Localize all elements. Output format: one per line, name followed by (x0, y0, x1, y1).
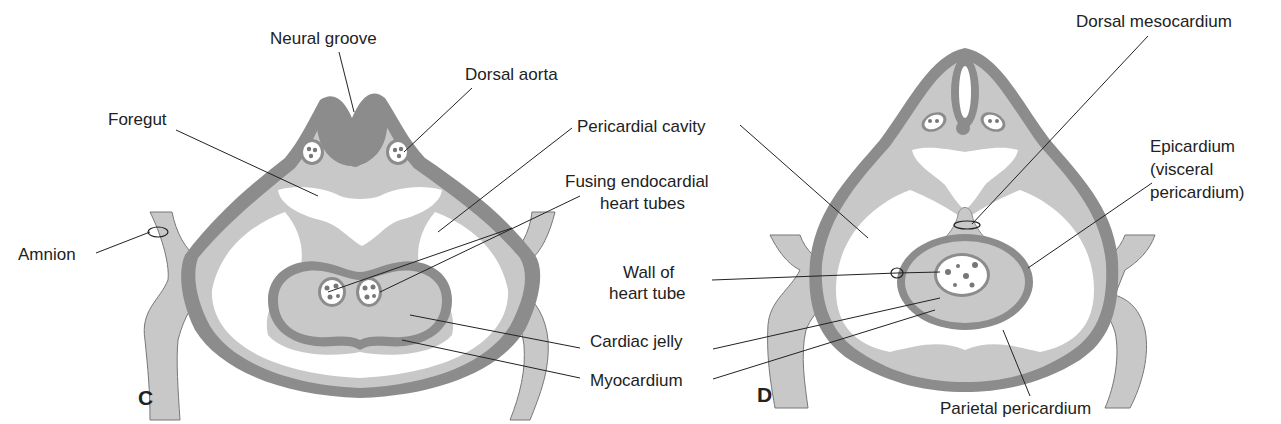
label-amnion: Amnion (18, 245, 76, 264)
label-dorsal-mesocardium: Dorsal mesocardium (1076, 12, 1232, 31)
label-pericardial-cavity: Pericardial cavity (577, 117, 706, 136)
panel-d-drawing (768, 48, 1155, 408)
label-myocardium: Myocardium (590, 371, 683, 390)
label-neural-groove: Neural groove (270, 29, 377, 48)
label-foregut: Foregut (108, 110, 167, 129)
label-wall-1: Wall of (623, 263, 675, 282)
label-fusing-1: Fusing endocardial (565, 172, 709, 191)
label-dorsal-aorta: Dorsal aorta (465, 65, 558, 84)
panel-c-drawing (144, 94, 555, 420)
label-epicardium-2: (visceral (1150, 160, 1213, 179)
label-fusing-2: heart tubes (600, 194, 685, 213)
embryo-cross-section-diagram: Neural groove Dorsal aorta Foregut Peric… (0, 0, 1281, 424)
label-epicardium-1: Epicardium (1150, 137, 1235, 156)
label-cardiac-jelly: Cardiac jelly (590, 332, 683, 351)
panel-letter-c: C (138, 386, 153, 409)
label-wall-2: heart tube (609, 284, 686, 303)
label-parietal-pericardium: Parietal pericardium (940, 399, 1091, 418)
label-epicardium-3: pericardium) (1150, 183, 1244, 202)
d-heart-lumen (937, 256, 987, 294)
panel-letter-d: D (757, 383, 772, 406)
c-notochord (348, 153, 362, 167)
